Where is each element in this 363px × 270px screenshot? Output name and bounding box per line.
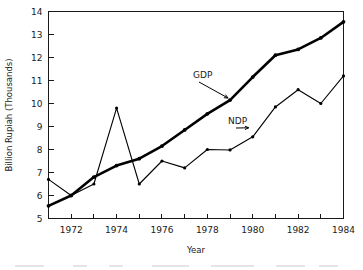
data-point [70, 194, 73, 197]
y-tick-label: 7 [37, 168, 43, 178]
data-point [47, 204, 51, 208]
data-point [183, 128, 187, 132]
x-axis-ticks: 1972197419761978198019821984 [49, 214, 356, 235]
data-point [228, 98, 232, 102]
y-tick-label: 13 [31, 30, 42, 40]
data-point [47, 178, 50, 181]
y-axis-ticks: 567891011121314 [31, 7, 53, 224]
x-axis-title: Year [186, 245, 206, 255]
annotation-label-ndp: NDP [228, 116, 248, 126]
plot-frame [49, 12, 344, 219]
line-chart: 567891011121314 197219741976197819801982… [0, 0, 363, 270]
annotation-gdp: GDP [193, 70, 228, 98]
data-point [137, 157, 141, 161]
y-tick-label: 10 [31, 99, 43, 109]
data-point [342, 74, 345, 77]
annotation-arrow-gdp [199, 82, 228, 98]
data-point [183, 166, 186, 169]
y-tick-label: 9 [37, 122, 43, 132]
axes-border [49, 12, 344, 219]
x-tick-label: 1978 [196, 225, 219, 235]
data-point [251, 75, 255, 79]
y-tick-label: 12 [31, 53, 42, 63]
cropped-caption-artifact [0, 260, 363, 270]
data-point [274, 53, 278, 57]
x-tick-label: 1980 [241, 225, 264, 235]
data-point [296, 48, 300, 52]
data-point [319, 36, 323, 40]
data-point [115, 164, 119, 168]
data-point [160, 159, 163, 162]
y-tick-label: 11 [31, 76, 42, 86]
data-point [115, 107, 118, 110]
annotation-label-gdp: GDP [193, 70, 213, 80]
data-point [205, 112, 209, 116]
data-point [251, 135, 254, 138]
x-tick-label: 1976 [151, 225, 174, 235]
data-point [319, 102, 322, 105]
data-point [160, 144, 164, 148]
y-axis-title: Billion Rupiah (Thousands) [4, 58, 14, 171]
x-tick-label: 1974 [105, 225, 128, 235]
data-point [274, 105, 277, 108]
annotation-arrow-ndp [236, 126, 249, 129]
x-tick-label: 1982 [287, 225, 310, 235]
data-point [342, 20, 346, 24]
data-point [92, 175, 96, 179]
data-point [92, 182, 95, 185]
data-point [228, 148, 231, 151]
data-point [297, 88, 300, 91]
x-tick-label: 1972 [60, 225, 83, 235]
data-point [138, 182, 141, 185]
y-tick-label: 8 [37, 145, 43, 155]
data-point [206, 148, 209, 151]
annotation-ndp: NDP [228, 116, 249, 130]
x-tick-label: 1984 [332, 225, 355, 235]
y-tick-label: 5 [37, 214, 43, 224]
y-tick-label: 14 [31, 7, 43, 17]
chart-figure: 567891011121314 197219741976197819801982… [0, 0, 363, 270]
y-tick-label: 6 [37, 191, 43, 201]
